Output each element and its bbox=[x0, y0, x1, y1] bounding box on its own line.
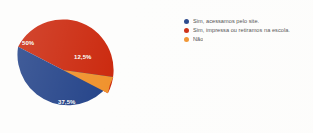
pie-label-blue: 37,5% bbox=[58, 99, 76, 105]
circle-marker-orange-icon bbox=[184, 37, 189, 42]
pie-chart-graphic bbox=[12, 19, 114, 121]
legend-label-nao: Não bbox=[193, 35, 203, 44]
legend-label-sim-escola: Sim, impressa ou retiramos na escola. bbox=[193, 26, 290, 35]
circle-marker-blue-icon bbox=[184, 19, 189, 24]
pie-label-orange: 12,5% bbox=[74, 54, 92, 60]
chart-legend: Sim, acessamos pelo site. Sim, impressa … bbox=[184, 17, 313, 44]
pie-slices-svg bbox=[12, 19, 114, 121]
circle-marker-red-icon bbox=[184, 28, 189, 33]
pie-chart-figure: 50% 12,5% 37,5% Sim, acessamos pelo site… bbox=[0, 0, 313, 133]
legend-label-sim-site: Sim, acessamos pelo site. bbox=[193, 17, 259, 26]
legend-item-sim-escola[interactable]: Sim, impressa ou retiramos na escola. bbox=[184, 26, 313, 35]
legend-item-nao[interactable]: Não bbox=[184, 35, 313, 44]
legend-item-sim-site[interactable]: Sim, acessamos pelo site. bbox=[184, 17, 313, 26]
pie-label-red: 50% bbox=[22, 40, 34, 46]
